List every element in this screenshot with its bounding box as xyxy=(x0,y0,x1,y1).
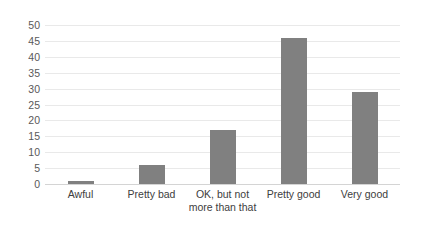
x-axis-tick-label: Pretty good xyxy=(258,188,329,201)
x-axis: AwfulPretty badOK, but not more than tha… xyxy=(45,188,400,224)
bar[interactable] xyxy=(68,181,94,184)
y-axis-tick-label: 35 xyxy=(14,67,40,78)
y-axis-tick-label: 40 xyxy=(14,52,40,63)
x-axis-tick-label: Awful xyxy=(45,188,116,201)
bar[interactable] xyxy=(352,92,378,184)
y-axis: 05101520253035404550 xyxy=(12,25,40,184)
x-axis-tick-label: Pretty bad xyxy=(116,188,187,201)
y-axis-tick-label: 15 xyxy=(14,131,40,142)
y-axis-tick-label: 30 xyxy=(14,83,40,94)
gridline xyxy=(45,184,400,185)
y-axis-tick-label: 5 xyxy=(14,163,40,174)
y-axis-tick-label: 50 xyxy=(14,20,40,31)
y-axis-tick-label: 45 xyxy=(14,36,40,47)
bar[interactable] xyxy=(210,130,236,184)
bars-layer xyxy=(45,25,400,184)
y-axis-tick-label: 20 xyxy=(14,115,40,126)
y-axis-tick-label: 10 xyxy=(14,147,40,158)
x-axis-tick-label: OK, but not more than that xyxy=(187,188,258,213)
bar[interactable] xyxy=(281,38,307,184)
x-axis-tick-label: Very good xyxy=(329,188,400,201)
bar[interactable] xyxy=(139,165,165,184)
y-axis-tick-label: 25 xyxy=(14,99,40,110)
y-axis-tick-label: 0 xyxy=(14,179,40,190)
bar-chart: 05101520253035404550 AwfulPretty badOK, … xyxy=(0,0,422,227)
